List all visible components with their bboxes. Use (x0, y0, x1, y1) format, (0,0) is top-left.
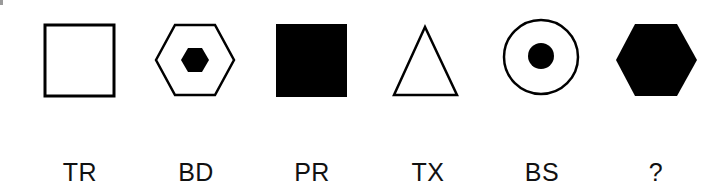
label-pr: PR (272, 156, 352, 188)
label-tr: TR (40, 156, 120, 188)
inner-filled-circle-icon (528, 43, 554, 69)
circle-with-inner-dot-icon (504, 20, 578, 94)
shapes-row (0, 0, 702, 130)
label-bd: BD (156, 156, 236, 188)
inner-filled-hexagon-icon (181, 48, 209, 72)
label-tx: TX (388, 156, 468, 188)
outlined-square-icon (45, 25, 114, 96)
hexagon-with-inner-hexagon-icon (156, 25, 234, 95)
filled-square-icon (276, 24, 347, 97)
label-unknown: ? (616, 156, 696, 188)
filled-hexagon-icon (616, 24, 697, 96)
outlined-triangle-icon (394, 27, 457, 95)
label-bs: BS (502, 156, 582, 188)
